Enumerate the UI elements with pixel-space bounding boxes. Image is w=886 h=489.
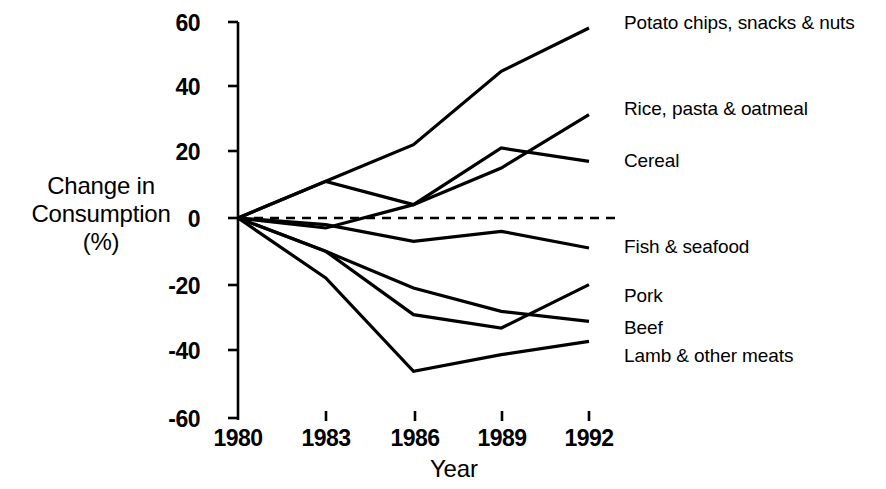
series-line-rice-pasta-oatmeal	[238, 115, 589, 228]
series-line-beef	[238, 218, 589, 321]
series-line-pork	[238, 218, 589, 328]
series-line-cereal	[238, 148, 589, 218]
series-label-pork: Pork	[624, 285, 663, 307]
series-label-potato-chips: Potato chips, snacks & nuts	[624, 12, 855, 34]
series-label-fish-seafood: Fish & seafood	[624, 236, 749, 258]
series-label-cereal: Cereal	[624, 150, 679, 172]
series-lines	[238, 28, 589, 371]
series-label-rice-pasta-oatmeal: Rice, pasta & oatmeal	[624, 98, 808, 120]
series-label-beef: Beef	[624, 317, 663, 339]
series-line-fish-seafood	[238, 218, 589, 248]
series-line-potato-chips-snacks-nuts	[238, 28, 589, 218]
series-label-lamb-other-meats: Lamb & other meats	[624, 345, 793, 367]
chart-figure: Change in Consumption (%) Year 60 40 20 …	[0, 0, 886, 489]
plot-area	[0, 0, 886, 489]
